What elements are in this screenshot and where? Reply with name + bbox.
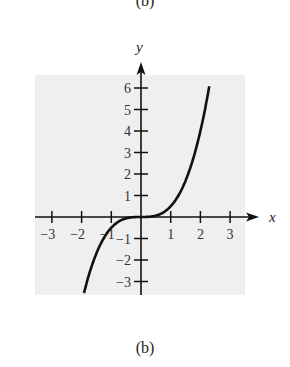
bottom-caption: (b)	[0, 339, 290, 357]
y-tick-label: −2	[116, 253, 131, 268]
x-tick-label: 2	[197, 227, 204, 242]
plot-background	[35, 75, 245, 295]
x-axis-label: x	[268, 209, 276, 225]
x-tick-label: 3	[227, 227, 234, 242]
y-axis-label: y	[134, 39, 143, 55]
x-tick-label: 1	[167, 227, 174, 242]
y-tick-label: 1	[124, 189, 131, 204]
y-tick-label: 2	[124, 167, 131, 182]
x-tick-label: −2	[70, 227, 85, 242]
y-tick-label: 3	[124, 146, 131, 161]
y-tick-label: −1	[116, 232, 131, 247]
y-tick-label: −3	[116, 275, 131, 290]
y-tick-label: 5	[124, 103, 131, 118]
y-tick-label: 4	[124, 124, 131, 139]
y-tick-label: 6	[124, 81, 131, 96]
cubic-function-plot: −3−2−1123−3−2−1123456 x y	[0, 0, 290, 367]
x-tick-label: −3	[40, 227, 55, 242]
